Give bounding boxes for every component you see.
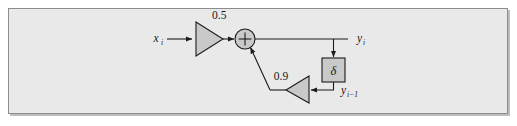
delayed-output-label-group: y i−1 bbox=[340, 84, 358, 99]
delay-block-label: δ bbox=[331, 64, 337, 78]
forward-gain-block: 0.5 bbox=[196, 9, 227, 56]
block-diagram: x i 0.5 y i δ bbox=[0, 0, 517, 126]
feedback-gain-block: 0.9 bbox=[274, 70, 309, 103]
delay-output-wire bbox=[311, 82, 334, 90]
figure-root: x i 0.5 y i δ bbox=[0, 0, 517, 126]
output-label-group: y i bbox=[356, 32, 365, 47]
forward-gain-triangle bbox=[196, 22, 223, 56]
feedback-to-sum-wire bbox=[251, 48, 271, 91]
delay-block: δ bbox=[322, 58, 345, 82]
feedback-gain-triangle bbox=[286, 76, 309, 103]
feedback-gain-label: 0.9 bbox=[274, 70, 289, 82]
input-label-group: x i bbox=[152, 32, 163, 47]
summing-junction bbox=[235, 29, 255, 49]
forward-gain-label: 0.5 bbox=[212, 9, 227, 21]
input-label: x bbox=[152, 32, 159, 44]
output-label: y bbox=[356, 32, 363, 45]
output-label-subscript: i bbox=[363, 38, 365, 47]
delayed-output-label: y bbox=[340, 84, 347, 97]
input-label-subscript: i bbox=[161, 38, 163, 47]
delayed-output-label-subscript: i−1 bbox=[347, 90, 358, 99]
